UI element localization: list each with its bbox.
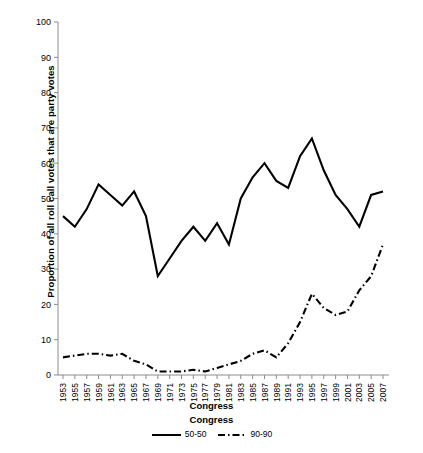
y-tick-label: 50 <box>41 194 51 204</box>
series-line-50-50 <box>63 138 383 276</box>
y-tick-label: 100 <box>36 17 51 27</box>
legend-item-90-90: 90-90 <box>217 429 273 439</box>
y-tick-label: 40 <box>41 229 51 239</box>
y-tick-label: 10 <box>41 335 51 345</box>
y-tick-label: 0 <box>46 370 51 380</box>
y-tick-label: 80 <box>41 88 51 98</box>
chart-legend: 50-5090-90 <box>0 429 423 439</box>
legend-swatch-90-90 <box>217 431 247 438</box>
y-tick-label: 60 <box>41 159 51 169</box>
chart-container: Proportion of all roll call votes that a… <box>0 0 423 453</box>
plot-area: 0102030405060708090100195319551957195919… <box>0 0 423 453</box>
x-axis-title: Congress <box>0 400 423 411</box>
y-tick-label: 70 <box>41 123 51 133</box>
legend-swatch-50-50 <box>151 431 181 438</box>
legend-label-90-90: 90-90 <box>251 429 273 439</box>
legend-label-50-50: 50-50 <box>185 429 207 439</box>
series-line-90-90 <box>63 244 383 371</box>
y-tick-label: 20 <box>41 300 51 310</box>
y-tick-label: 90 <box>41 53 51 63</box>
legend-item-50-50: 50-50 <box>151 429 207 439</box>
legend-title: Congress <box>0 414 423 425</box>
y-tick-label: 30 <box>41 264 51 274</box>
